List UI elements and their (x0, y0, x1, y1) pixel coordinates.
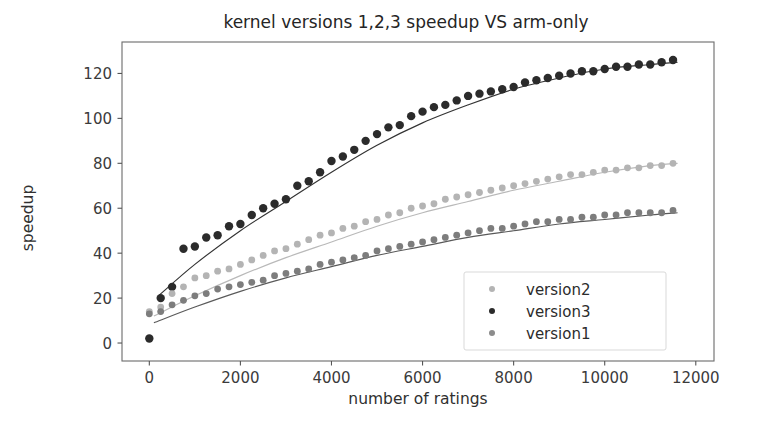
data-point (487, 225, 494, 232)
data-point (213, 231, 221, 239)
data-point (248, 279, 255, 286)
data-point (613, 167, 620, 174)
data-point (453, 232, 460, 239)
chart-legend[interactable]: version2version3version1 (464, 272, 666, 350)
data-point (566, 69, 574, 77)
data-point (567, 216, 574, 223)
data-point (407, 112, 415, 120)
data-point (522, 221, 529, 228)
data-point (510, 182, 517, 189)
data-point (579, 171, 586, 178)
data-point (350, 146, 358, 154)
x-tick-label: 8000 (495, 369, 533, 387)
data-point (316, 168, 324, 176)
y-axis-title: speedup (19, 185, 37, 252)
data-point (225, 222, 233, 230)
data-point (499, 225, 506, 232)
data-point (191, 274, 198, 281)
data-point (510, 223, 517, 230)
x-tick-label: 10000 (581, 369, 629, 387)
data-point (442, 196, 449, 203)
data-point (294, 241, 301, 248)
data-point (499, 185, 506, 192)
data-point (202, 233, 210, 241)
data-point (453, 194, 460, 201)
legend-marker-version3 (489, 308, 495, 314)
data-point (260, 252, 267, 259)
data-point (475, 89, 483, 97)
x-tick-label: 12000 (672, 369, 720, 387)
data-point (658, 209, 665, 216)
data-point (384, 123, 392, 131)
data-point (658, 162, 665, 169)
data-point (544, 176, 551, 183)
data-point (385, 245, 392, 252)
data-point (544, 74, 552, 82)
data-point (248, 211, 256, 219)
data-point (180, 297, 187, 304)
data-point (191, 292, 198, 299)
data-point (168, 283, 176, 291)
data-point (203, 290, 210, 297)
data-point (191, 242, 199, 250)
data-point (408, 205, 415, 212)
data-point (578, 67, 586, 75)
data-point (283, 245, 290, 252)
legend-marker-version1 (489, 330, 495, 336)
data-point (522, 180, 529, 187)
data-point (351, 223, 358, 230)
data-point (294, 268, 301, 275)
data-point (624, 209, 631, 216)
data-point (670, 207, 677, 214)
data-point (613, 212, 620, 219)
data-point (556, 173, 563, 180)
data-point (385, 212, 392, 219)
data-point (271, 272, 278, 279)
y-tick-label: 0 (102, 335, 112, 353)
data-point (260, 277, 267, 284)
data-point (635, 164, 642, 171)
data-point (465, 230, 472, 237)
data-point (590, 214, 597, 221)
chart-title: kernel versions 1,2,3 speedup VS arm-onl… (223, 12, 588, 32)
data-point (237, 261, 244, 268)
data-point (237, 281, 244, 288)
data-point (396, 121, 404, 129)
data-point (579, 214, 586, 221)
data-point (647, 162, 654, 169)
data-point (498, 85, 506, 93)
legend-label-version2[interactable]: version2 (526, 281, 590, 299)
data-point (157, 294, 165, 302)
data-point (431, 236, 438, 243)
data-point (532, 76, 540, 84)
data-point (328, 230, 335, 237)
data-point (226, 283, 233, 290)
figure-canvas: kernel versions 1,2,3 speedup VS arm-onl… (0, 0, 764, 429)
legend-label-version1[interactable]: version1 (526, 325, 590, 343)
data-point (374, 216, 381, 223)
data-point (373, 130, 381, 138)
data-point (396, 243, 403, 250)
data-point (601, 167, 608, 174)
data-point (555, 72, 563, 80)
data-point (464, 92, 472, 100)
data-point (179, 244, 187, 252)
data-point (271, 248, 278, 255)
data-point (647, 209, 654, 216)
data-point (169, 301, 176, 308)
data-point (157, 308, 164, 315)
legend-label-version3[interactable]: version3 (526, 303, 590, 321)
data-point (339, 152, 347, 160)
data-point (556, 216, 563, 223)
data-point (431, 200, 438, 207)
data-point (328, 259, 335, 266)
data-point (362, 252, 369, 259)
data-point (544, 218, 551, 225)
data-point (590, 169, 597, 176)
data-point (270, 200, 278, 208)
data-point (521, 78, 529, 86)
data-point (226, 265, 233, 272)
data-point (441, 101, 449, 109)
data-point (305, 177, 313, 185)
y-tick-label: 80 (93, 155, 112, 173)
